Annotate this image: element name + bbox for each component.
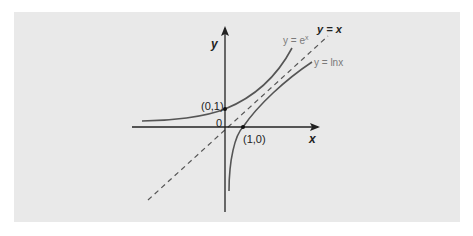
logarithm-label: y = lnx <box>314 57 343 68</box>
y-axis-label: y <box>210 37 219 51</box>
point-1-0-label: (1,0) <box>243 133 266 145</box>
identity-line-label: y = x <box>316 23 343 35</box>
origin-label: 0 <box>216 117 222 129</box>
x-axis-label: x <box>308 132 317 146</box>
exponential-label: y = ex <box>283 34 309 46</box>
point-0-1-label: (0,1) <box>201 100 224 112</box>
point-1-0 <box>241 125 245 129</box>
identity-line <box>148 36 328 200</box>
function-graph: y x 0 (0,1) (1,0) y = x y = ex y = lnx <box>0 0 473 236</box>
